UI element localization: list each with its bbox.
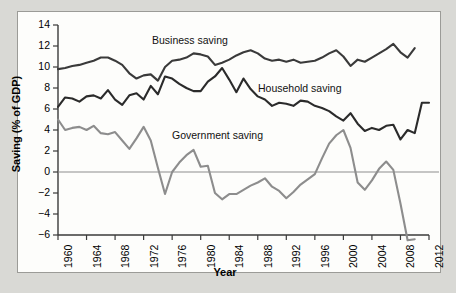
- series-line-business-saving: [58, 44, 415, 81]
- y-tick-label: 12: [24, 39, 50, 51]
- y-tick-label: 10: [24, 60, 50, 72]
- y-tick-label: −2: [24, 186, 50, 198]
- figure-canvas: Saving (% of GDP) Year −6−4−202468101214…: [0, 0, 456, 293]
- series-annotation: Government saving: [172, 129, 263, 141]
- y-tick-label: 8: [24, 81, 50, 93]
- series-lines: [58, 44, 429, 240]
- y-axis-label: Saving (% of GDP): [10, 64, 22, 184]
- y-tick-label: −4: [24, 207, 50, 219]
- y-tick-label: 0: [24, 165, 50, 177]
- x-tick-label: 1960: [62, 245, 74, 268]
- x-tick-label: 1968: [119, 245, 131, 268]
- x-tick-label: 1984: [233, 245, 245, 268]
- x-tick-label: 2004: [376, 245, 388, 268]
- x-tick-label: 2012: [433, 245, 445, 268]
- y-tick-label: 14: [24, 18, 50, 30]
- y-tick-label: 2: [24, 144, 50, 156]
- x-tick-label: 1996: [319, 245, 331, 268]
- x-tick-label: 1964: [91, 245, 103, 268]
- y-tick-label: 6: [24, 102, 50, 114]
- x-tick-label: 1988: [262, 245, 274, 268]
- x-tick-label: 1980: [205, 245, 217, 268]
- series-annotation: Household saving: [258, 82, 341, 94]
- x-tick-label: 1972: [148, 245, 160, 268]
- y-tick-label: 4: [24, 123, 50, 135]
- x-tick-label: 2000: [347, 245, 359, 268]
- x-tick-label: 1976: [176, 245, 188, 268]
- x-axis-label: Year: [180, 266, 270, 278]
- x-tick-label: 2008: [404, 245, 416, 268]
- saving-line-chart: [17, 11, 441, 273]
- x-tick-label: 1992: [290, 245, 302, 268]
- series-annotation: Business saving: [152, 34, 228, 46]
- y-tick-label: −6: [24, 228, 50, 240]
